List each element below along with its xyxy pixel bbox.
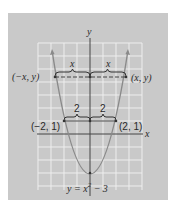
point-0-1: [89, 120, 92, 123]
brace-label-upper-right: x: [105, 58, 111, 69]
point-2-1: [115, 120, 118, 123]
y-axis-label: y: [86, 26, 92, 37]
label-point-2-1: (2, 1): [119, 121, 142, 132]
brace-label-lower-left: 2: [74, 103, 80, 114]
vertex-point: [89, 172, 92, 175]
label-point-minus-x-y: (−x, y): [12, 71, 40, 83]
equation-label: y = x2 − 3: [66, 181, 108, 194]
label-point-minus-2-1: (−2, 1): [31, 121, 60, 132]
equation-rhs: − 3: [91, 183, 108, 194]
point-0-y: [89, 76, 92, 79]
label-point-x-y: (x, y): [131, 72, 152, 84]
brace-label-upper-left: x: [69, 58, 75, 69]
equation-lhs: y = x: [66, 183, 88, 194]
point-minus-x-y: [54, 76, 57, 79]
point-minus-2-1: [63, 120, 66, 123]
brace-label-lower-right: 2: [100, 103, 106, 114]
x-axis-label: x: [144, 128, 150, 139]
parabola-symmetry-diagram: y x x x (−x, y) (x, y) 2 2 (−2, 1) (2, 1…: [0, 0, 176, 213]
point-x-y: [125, 76, 128, 79]
figure-panel: [8, 13, 168, 200]
